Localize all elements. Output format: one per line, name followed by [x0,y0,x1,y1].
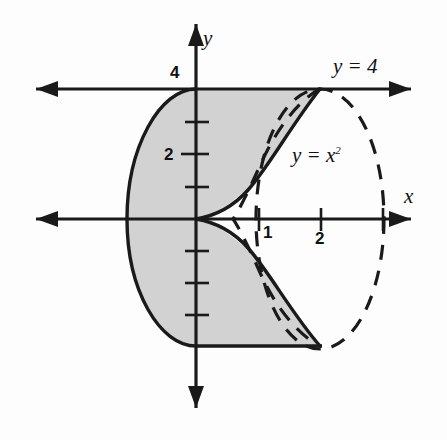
label-curve-y-equals-x-squared: y = x2 [292,145,341,166]
figure-canvas [0,0,447,440]
label-line-y-equals-4: y = 4 [333,56,378,77]
y-tick-label-4: 4 [170,64,179,81]
label-parabola-eq: = x [301,143,335,167]
x-tick-label-1: 1 [263,224,272,241]
math-figure: y x 4 2 1 2 y = 4 y = x2 [0,0,447,440]
label-parabola-y: y [292,143,301,167]
x-axis [36,211,411,227]
y-tick-label-2: 2 [164,146,173,163]
label-parabola-exponent: 2 [335,144,341,156]
x-tick-label-2: 2 [315,230,324,247]
x-axis-label: x [404,186,413,207]
y-axis-label: y [203,28,212,49]
